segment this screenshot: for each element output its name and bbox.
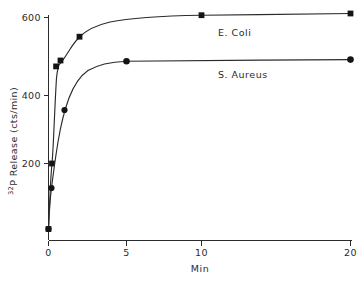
series-label-ecoli: E. Coli: [218, 27, 251, 38]
datapoint-saureus-4: [347, 56, 354, 63]
y-axis-title: 32P Release (cts/min): [7, 87, 19, 195]
datapoint-saureus-3: [123, 58, 130, 65]
y-tick-label-200: 200: [22, 158, 41, 169]
y-axis-title-main: P Release (cts/min): [8, 87, 19, 186]
x-tick-label-20: 20: [344, 247, 357, 258]
series-ecoli: E. Coli: [46, 11, 354, 232]
datapoint-ecoli-3: [58, 58, 64, 64]
figure-root: 600 400 200 32P Release (cts/min) 0 5 10…: [0, 0, 363, 282]
x-axis-title: Min: [191, 263, 209, 274]
datapoint-ecoli-5: [199, 12, 205, 18]
x-tick-label-10: 10: [195, 247, 208, 258]
datapoint-saureus-2: [61, 107, 67, 113]
y-axis-title-superscript: 32: [7, 186, 15, 195]
series-saureus: S. Aureus: [45, 56, 353, 232]
y-axis: 600 400 200: [22, 12, 49, 240]
chart-canvas: 600 400 200 32P Release (cts/min) 0 5 10…: [0, 0, 363, 282]
datapoint-ecoli-6: [348, 11, 354, 17]
y-tick-label-600: 600: [22, 12, 41, 23]
series-ecoli-line: [49, 14, 351, 230]
x-tick-label-0: 0: [45, 247, 51, 258]
series-label-saureus: S. Aureus: [218, 69, 268, 80]
datapoint-saureus-1: [48, 185, 54, 191]
x-axis: 0 5 10 20 Min: [45, 241, 357, 275]
datapoint-saureus-0: [45, 226, 51, 232]
x-tick-label-5: 5: [123, 247, 129, 258]
datapoint-ecoli-2: [53, 64, 59, 70]
y-tick-label-400: 400: [22, 90, 41, 101]
series-saureus-line: [49, 60, 351, 229]
svg-text:32P Release (cts/min): 32P Release (cts/min): [7, 87, 19, 195]
datapoint-ecoli-4: [77, 34, 83, 40]
